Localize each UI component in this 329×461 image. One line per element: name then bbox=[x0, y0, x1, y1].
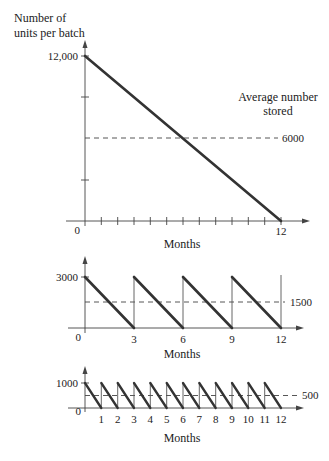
inventory-line bbox=[85, 56, 281, 221]
x-tick-6: 6 bbox=[180, 333, 186, 345]
svg-text:7: 7 bbox=[197, 413, 203, 425]
annotation-line2: stored bbox=[263, 104, 292, 118]
svg-text:10: 10 bbox=[243, 413, 255, 425]
svg-text:2: 2 bbox=[115, 413, 121, 425]
x-tick-labels: 1 2 3 4 5 6 7 8 9 10 11 12 bbox=[99, 413, 287, 425]
x-tick-12: 12 bbox=[276, 333, 287, 345]
x-axis-arrow-icon bbox=[296, 326, 304, 331]
svg-text:8: 8 bbox=[213, 413, 219, 425]
svg-text:5: 5 bbox=[164, 413, 170, 425]
svg-text:1: 1 bbox=[99, 413, 105, 425]
svg-text:4: 4 bbox=[148, 413, 154, 425]
x-axis-label: Months bbox=[164, 431, 201, 445]
average-value: 500 bbox=[302, 389, 319, 401]
svg-text:6: 6 bbox=[180, 413, 186, 425]
x-tick-9: 9 bbox=[229, 333, 235, 345]
x-axis-label: Months bbox=[164, 237, 201, 251]
x-tick-0: 0 bbox=[76, 405, 82, 417]
y-tick-12000: 12,000 bbox=[48, 50, 79, 62]
y-axis-arrow-icon bbox=[83, 40, 88, 48]
y-axis-label-line1: Number of bbox=[14, 11, 66, 25]
x-tick-0: 0 bbox=[75, 224, 81, 236]
x-axis-arrow-icon bbox=[296, 406, 304, 411]
inventory-charts: Number of units per batch 12,000 0 12 bbox=[0, 0, 329, 461]
svg-text:3: 3 bbox=[131, 413, 137, 425]
annotation-line1: Average number bbox=[238, 90, 317, 104]
svg-text:9: 9 bbox=[229, 413, 235, 425]
y-tick-1000: 1000 bbox=[56, 377, 79, 389]
y-axis-arrow-icon bbox=[83, 256, 88, 264]
svg-text:11: 11 bbox=[259, 413, 270, 425]
x-axis-label: Months bbox=[164, 347, 201, 361]
y-axis-arrow-icon bbox=[83, 366, 88, 374]
chart-annual-order: Number of units per batch 12,000 0 12 bbox=[14, 11, 318, 251]
x-axis-arrow-icon bbox=[302, 219, 310, 224]
chart-quarterly-order: 3000 1500 0 3 6 9 12 Months bbox=[56, 256, 313, 361]
average-value: 6000 bbox=[282, 132, 305, 144]
y-tick-3000: 3000 bbox=[56, 271, 79, 283]
x-tick-0: 0 bbox=[76, 331, 82, 343]
x-tick-3: 3 bbox=[131, 333, 137, 345]
svg-text:12: 12 bbox=[276, 413, 287, 425]
chart-monthly-order: 1000 500 bbox=[56, 366, 319, 445]
average-value: 1500 bbox=[290, 296, 313, 308]
x-tick-12: 12 bbox=[276, 225, 287, 237]
y-axis-label-line2: units per batch bbox=[14, 26, 85, 40]
